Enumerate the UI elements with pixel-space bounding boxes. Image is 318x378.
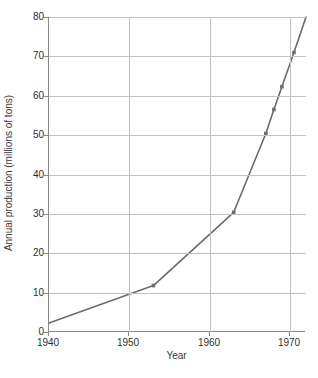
x-tick-mark xyxy=(289,332,290,336)
x-tick-label: 1950 xyxy=(108,337,148,348)
gridline-vertical xyxy=(290,17,291,332)
y-tick-label: 70 xyxy=(4,51,44,61)
gridline-horizontal xyxy=(49,293,306,294)
line-chart: Annual production (millions of tons) 010… xyxy=(0,0,318,378)
gridline-vertical xyxy=(129,17,130,332)
data-point xyxy=(292,51,296,55)
y-axis-ticks: 01020304050607080 xyxy=(0,17,44,333)
gridline-horizontal xyxy=(49,17,306,18)
gridline-horizontal xyxy=(49,175,306,176)
gridline-horizontal xyxy=(49,96,306,97)
gridline-horizontal xyxy=(49,56,306,57)
x-tick-mark xyxy=(128,332,129,336)
x-tick-mark xyxy=(48,332,49,336)
data-point xyxy=(272,108,276,112)
y-tick-label: 50 xyxy=(4,130,44,140)
series-line xyxy=(49,17,306,323)
y-tick-label: 30 xyxy=(4,209,44,219)
x-tick-label: 1960 xyxy=(189,337,229,348)
y-tick-label: 80 xyxy=(4,12,44,22)
x-axis-title-label: Year xyxy=(48,350,305,361)
series-markers xyxy=(152,51,296,288)
gridline-horizontal xyxy=(49,214,306,215)
y-tick-label: 60 xyxy=(4,91,44,101)
x-tick-label: 1970 xyxy=(269,337,309,348)
y-tick-label: 20 xyxy=(4,248,44,258)
data-point xyxy=(280,85,284,89)
data-point xyxy=(152,284,156,288)
y-tick-label: 40 xyxy=(4,170,44,180)
gridline-horizontal xyxy=(49,135,306,136)
x-axis-ticks: 1940195019601970 xyxy=(48,332,310,352)
y-tick-label: 10 xyxy=(4,288,44,298)
gridline-horizontal xyxy=(49,253,306,254)
x-tick-mark xyxy=(209,332,210,336)
y-tick-label: 0 xyxy=(4,327,44,337)
x-tick-label: 1940 xyxy=(28,337,68,348)
gridline-vertical xyxy=(210,17,211,332)
plot-area xyxy=(48,17,305,332)
